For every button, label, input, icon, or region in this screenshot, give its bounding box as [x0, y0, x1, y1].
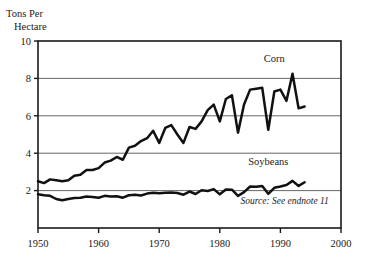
y-axis-title-line1: Tons Per — [6, 8, 43, 19]
chart-container: Tons Per Hectare 246810 1950196019701980… — [0, 0, 365, 269]
y-tick-label-6: 6 — [26, 111, 31, 122]
x-tick-label-1980: 1980 — [209, 238, 230, 249]
y-tick-labels: 246810 — [21, 36, 32, 197]
x-tick-label-2000: 2000 — [331, 238, 352, 249]
x-tick-label-1990: 1990 — [270, 238, 291, 249]
yield-line-chart: Tons Per Hectare 246810 1950196019701980… — [0, 0, 365, 269]
y-tick-label-2: 2 — [26, 185, 31, 196]
x-tick-label-1960: 1960 — [88, 238, 109, 249]
y-tick-label-4: 4 — [26, 148, 32, 159]
soybeans-label: Soybeans — [248, 156, 288, 167]
y-tick-label-8: 8 — [26, 73, 31, 84]
source-note: Source: See endnote 11 — [241, 196, 329, 206]
x-tick-label-1950: 1950 — [28, 238, 49, 249]
x-tick-label-1970: 1970 — [149, 238, 170, 249]
y-axis-title-line2: Hectare — [14, 21, 47, 32]
x-tick-labels: 195019601970198019902000 — [28, 238, 352, 249]
corn-label: Corn — [264, 53, 286, 64]
chart-annotations: CornSoybeansSource: See endnote 11 — [241, 53, 329, 206]
y-tick-label-10: 10 — [21, 36, 32, 47]
data-series-group — [38, 74, 305, 201]
